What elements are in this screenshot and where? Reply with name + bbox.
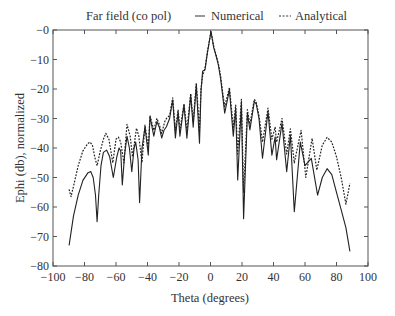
x-tick-label: −60 bbox=[107, 270, 126, 284]
x-tick-label: 60 bbox=[299, 270, 311, 284]
y-tick-label: −80 bbox=[30, 259, 49, 273]
x-tick-label: 100 bbox=[359, 270, 377, 284]
y-axis: −0−10−20−30−40−50−60−70−80 bbox=[30, 23, 368, 273]
chart-title: Far field (co pol) bbox=[86, 9, 171, 23]
chart-canvas: Far field (co pol) Numerical Analytical … bbox=[0, 0, 395, 316]
x-tick-label: −80 bbox=[75, 270, 94, 284]
legend: Numerical Analytical bbox=[195, 9, 348, 23]
plot-frame bbox=[53, 30, 368, 266]
x-axis-label: Theta (degrees) bbox=[171, 291, 249, 305]
x-tick-label: 20 bbox=[236, 270, 248, 284]
y-tick-label: −0 bbox=[36, 23, 49, 37]
y-tick-label: −30 bbox=[30, 112, 49, 126]
legend-label-analytical: Analytical bbox=[295, 9, 348, 23]
legend-label-numerical: Numerical bbox=[211, 9, 264, 23]
y-tick-label: −20 bbox=[30, 82, 49, 96]
series-analytical-line bbox=[69, 32, 350, 205]
y-tick-label: −10 bbox=[30, 53, 49, 67]
x-tick-label: −40 bbox=[138, 270, 157, 284]
series-numerical-line bbox=[69, 32, 350, 252]
y-tick-label: −60 bbox=[30, 200, 49, 214]
x-tick-label: 80 bbox=[331, 270, 343, 284]
y-tick-label: −40 bbox=[30, 141, 49, 155]
x-axis: −100−80−60−40−20020406080100 bbox=[41, 30, 377, 284]
x-tick-label: 40 bbox=[268, 270, 280, 284]
x-tick-label: −20 bbox=[170, 270, 189, 284]
y-tick-label: −70 bbox=[30, 230, 49, 244]
y-axis-label: Ephi (db), normalized bbox=[13, 92, 27, 203]
chart-figure: Far field (co pol) Numerical Analytical … bbox=[0, 0, 395, 316]
y-tick-label: −50 bbox=[30, 171, 49, 185]
x-tick-label: 0 bbox=[208, 270, 214, 284]
